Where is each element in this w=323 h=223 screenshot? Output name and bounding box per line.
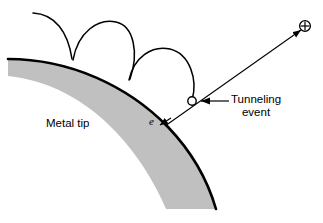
metal-tip-shape bbox=[8, 59, 216, 209]
tunneling-diagram: Metal tip Tunnelingevent e bbox=[0, 0, 323, 223]
electron-trajectory-loop-2 bbox=[73, 21, 134, 79]
electron-trajectory-loop-3 bbox=[129, 48, 194, 100]
tunneling-label-line1: Tunneling bbox=[231, 93, 281, 105]
metal-tip-label: Metal tip bbox=[46, 117, 89, 129]
electron-label: e bbox=[149, 116, 154, 128]
electron-trajectory-loop-1 bbox=[33, 13, 72, 59]
tunneling-event-label: Tunnelingevent bbox=[231, 93, 281, 119]
tunneling-label-line2: event bbox=[231, 106, 281, 119]
tunneling-event-circle bbox=[188, 97, 196, 105]
positive-ion-symbol bbox=[300, 21, 311, 32]
metal-tip-fill bbox=[8, 59, 216, 209]
